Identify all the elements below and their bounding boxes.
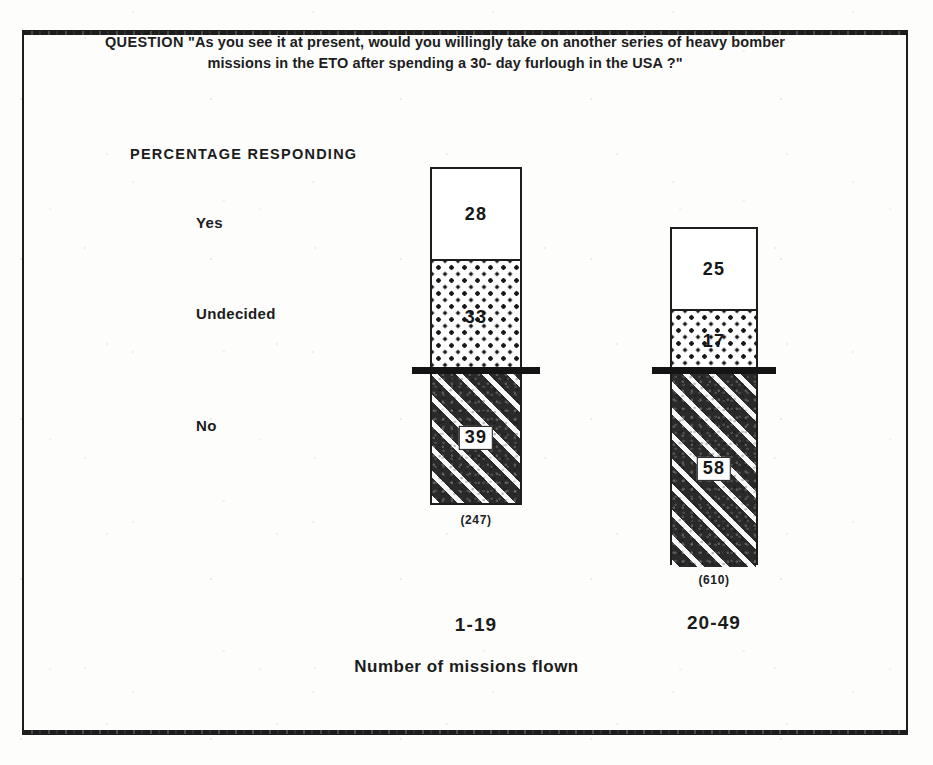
question-label: QUESTION	[105, 34, 184, 50]
question-text-line-1: "As you see it at present, would you wil…	[188, 34, 785, 50]
frame-rule-bottom	[24, 730, 906, 734]
question-text-line-2: missions in the ETO after spending a 30-…	[50, 53, 840, 74]
baseline-marker-20-49	[652, 367, 776, 374]
legend-item-no: No	[196, 417, 217, 434]
segment-value-undecided-1-19: 33	[465, 306, 487, 327]
segment-undecided-20-49[interactable]: 17	[672, 309, 756, 370]
segment-undecided-1-19[interactable]: 33	[432, 259, 520, 372]
bar-group-1-19: 28 33 39 (247)	[430, 167, 522, 505]
bar-group-20-49: 25 17 58 (610)	[670, 227, 758, 565]
question-header: QUESTION "As you see it at present, woul…	[50, 32, 840, 73]
segment-value-undecided-20-49: 17	[703, 330, 725, 351]
segment-value-yes-20-49: 25	[703, 259, 725, 280]
axis-title: Number of missions flown	[0, 657, 933, 677]
sample-size-20-49: (610)	[670, 573, 758, 587]
segment-no-20-49[interactable]: 58	[672, 370, 756, 567]
segment-yes-1-19[interactable]: 28	[432, 169, 520, 259]
stacked-bar-20-49[interactable]: 25 17 58	[670, 227, 758, 565]
stacked-bar-1-19[interactable]: 28 33 39	[430, 167, 522, 505]
segment-value-no-1-19: 39	[459, 425, 493, 449]
category-label-1-19: 1-19	[406, 614, 546, 636]
segment-yes-20-49[interactable]: 25	[672, 229, 756, 309]
legend-item-undecided: Undecided	[196, 305, 276, 322]
sample-size-1-19: (247)	[430, 513, 522, 527]
question-line-1: QUESTION "As you see it at present, woul…	[50, 32, 840, 53]
legend-title: PERCENTAGE RESPONDING	[130, 146, 357, 162]
segment-value-no-20-49: 58	[697, 456, 731, 480]
legend-item-yes: Yes	[196, 214, 223, 231]
segment-value-yes-1-19: 28	[465, 204, 487, 225]
scan-surface: QUESTION "As you see it at present, woul…	[0, 0, 933, 765]
baseline-marker-1-19	[412, 367, 540, 374]
segment-no-1-19[interactable]: 39	[432, 372, 520, 503]
category-label-20-49: 20-49	[644, 612, 784, 634]
